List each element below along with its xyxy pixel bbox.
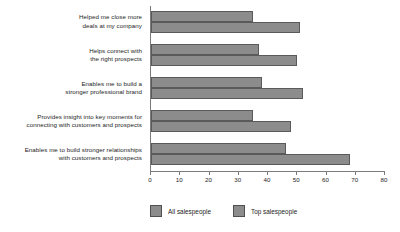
category-label-line: with customers and prospects <box>0 154 142 162</box>
x-tick-mark <box>384 172 385 175</box>
bar-top-salespeople <box>151 121 291 132</box>
bar-top-salespeople <box>151 22 300 33</box>
bar-group <box>151 77 385 99</box>
x-axis-ticks: 01020304050607080 <box>150 172 386 188</box>
bar-top-salespeople <box>151 88 303 99</box>
legend-item[interactable]: Top salespeople <box>233 205 297 217</box>
x-tick-mark <box>355 172 356 175</box>
bar-all-salespeople <box>151 44 259 55</box>
bar-all-salespeople <box>151 110 253 121</box>
bar-group <box>151 44 385 66</box>
x-tick-mark <box>238 172 239 175</box>
category-label: Enables me to build astronger profession… <box>0 80 142 96</box>
category-label-line: Helps connect with <box>0 47 142 55</box>
category-label-line: Enables me to build a <box>0 80 142 88</box>
bar-top-salespeople <box>151 154 350 165</box>
bar-top-salespeople <box>151 55 297 66</box>
category-label-line: Enables me to build stronger relationshi… <box>0 146 142 154</box>
horizontal-bar-chart: Helped me close moredeals at my companyH… <box>0 0 400 232</box>
category-axis-labels: Helped me close moredeals at my companyH… <box>0 6 146 172</box>
bar-group <box>151 11 385 33</box>
bar-all-salespeople <box>151 77 262 88</box>
chart-legend: All salespeopleTop salespeople <box>150 201 390 221</box>
category-label-line: the right prospects <box>0 55 142 63</box>
category-label-line: connecting with customers and prospects <box>0 121 142 129</box>
x-tick-label: 50 <box>284 176 308 183</box>
x-tick-mark <box>326 172 327 175</box>
legend-item[interactable]: All salespeople <box>150 205 211 217</box>
legend-swatch-icon <box>233 205 245 217</box>
category-label-line: Helped me close more <box>0 13 142 21</box>
legend-label: Top salespeople <box>251 208 297 215</box>
legend-label: All salespeople <box>168 208 211 215</box>
category-label-line: Provides insight into key moments for <box>0 113 142 121</box>
x-tick-label: 40 <box>255 176 279 183</box>
category-label: Helps connect withthe right prospects <box>0 47 142 63</box>
category-label: Enables me to build stronger relationshi… <box>0 146 142 162</box>
category-label: Helped me close moredeals at my company <box>0 13 142 29</box>
legend-swatch-icon <box>150 205 162 217</box>
x-tick-label: 80 <box>372 176 396 183</box>
category-label-line: stronger professional brand <box>0 88 142 96</box>
category-label-line: deals at my company <box>0 22 142 30</box>
x-tick-mark <box>209 172 210 175</box>
bar-group <box>151 143 385 165</box>
x-tick-mark <box>267 172 268 175</box>
x-tick-mark <box>296 172 297 175</box>
x-tick-label: 30 <box>226 176 250 183</box>
category-label: Provides insight into key moments forcon… <box>0 113 142 129</box>
x-tick-label: 10 <box>167 176 191 183</box>
x-tick-label: 60 <box>314 176 338 183</box>
x-tick-label: 20 <box>197 176 221 183</box>
x-tick-label: 70 <box>343 176 367 183</box>
x-tick-mark <box>150 172 151 175</box>
x-tick-mark <box>179 172 180 175</box>
bar-all-salespeople <box>151 11 253 22</box>
plot-area <box>150 6 385 172</box>
x-tick-label: 0 <box>138 176 162 183</box>
bar-all-salespeople <box>151 143 286 154</box>
bar-group <box>151 110 385 132</box>
